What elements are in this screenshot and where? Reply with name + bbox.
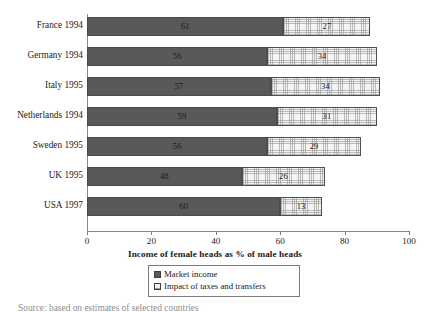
bar-value-label: 13 [297,202,306,211]
bar-segment-taxes-transfers: 26 [242,167,326,186]
bar-value-label: 34 [318,52,327,61]
legend-label: Market income [164,269,218,281]
bar-value-label: 59 [178,112,187,121]
bar-value-label: 56 [173,142,182,151]
bar-row: 61 27 [87,17,370,36]
bar-value-label: 56 [173,52,182,61]
x-tick-mark [409,231,410,235]
bar-value-label: 61 [181,22,190,31]
bar-segment-market-income: 56 [87,47,267,66]
bar-segment-market-income: 48 [87,167,242,186]
legend-label: Impact of taxes and transfers [164,281,266,293]
legend: Market income Impact of taxes and transf… [148,265,300,297]
x-tick-mark [345,231,346,235]
legend-swatch-icon [154,271,161,278]
bar-value-label: 34 [321,82,330,91]
bar-row: 48 26 [87,167,325,186]
bar-value-label: 31 [323,112,332,121]
legend-item-taxes-transfers: Impact of taxes and transfers [154,281,294,293]
bar-value-label: 48 [160,172,169,181]
bar-segment-taxes-transfers: 31 [277,107,377,126]
category-label-italy: Italy 1995 [0,80,83,90]
category-label-uk: UK 1995 [0,170,83,180]
bar-value-label: 29 [310,142,319,151]
x-tick-label: 60 [276,236,285,246]
category-label-france: France 1994 [0,20,83,30]
bar-segment-market-income: 56 [87,137,267,156]
bar-row: 60 13 [87,197,322,216]
bar-row: 59 31 [87,107,377,126]
bar-segment-market-income: 59 [87,107,277,126]
legend-swatch-icon [154,283,161,290]
x-tick-label: 40 [211,236,220,246]
bar-value-label: 26 [279,172,288,181]
x-tick-mark [216,231,217,235]
x-tick-mark [151,231,152,235]
bar-segment-taxes-transfers: 29 [267,137,360,156]
bar-value-label: 27 [323,22,332,31]
bar-segment-taxes-transfers: 13 [280,197,322,216]
category-label-sweden: Sweden 1995 [0,140,83,150]
caption-partial: Source: based on estimates of selected c… [18,303,412,312]
x-axis-title: Income of female heads as % of male head… [0,249,430,259]
bar-segment-market-income: 57 [87,77,271,96]
bar-row: 56 34 [87,47,377,66]
x-tick-label: 20 [147,236,156,246]
x-tick-label: 100 [402,236,416,246]
bar-row: 57 34 [87,77,380,96]
bar-chart: France 1994 Germany 1994 Italy 1995 Neth… [0,0,430,312]
x-axis-line [87,231,409,232]
category-label-usa: USA 1997 [0,200,83,210]
x-tick-mark [87,231,88,235]
x-tick-label: 0 [85,236,90,246]
category-label-netherlands: Netherlands 1994 [0,110,83,120]
bar-row: 56 29 [87,137,361,156]
legend-item-market-income: Market income [154,269,294,281]
bar-value-label: 60 [179,202,188,211]
bar-segment-market-income: 60 [87,197,280,216]
bar-segment-taxes-transfers: 34 [271,77,380,96]
x-tick-mark [280,231,281,235]
bar-segment-taxes-transfers: 27 [283,17,370,36]
category-label-germany: Germany 1994 [0,50,83,60]
bar-segment-taxes-transfers: 34 [267,47,376,66]
x-tick-label: 80 [340,236,349,246]
bar-segment-market-income: 61 [87,17,283,36]
bar-value-label: 57 [174,82,183,91]
